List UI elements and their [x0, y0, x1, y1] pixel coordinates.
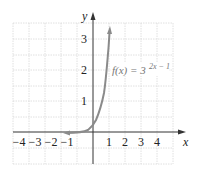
- function-label: f(x) = 3 2x − 1: [111, 62, 170, 77]
- x-tick-label: −1: [61, 135, 74, 149]
- x-tick-label: 3: [138, 135, 144, 149]
- y-axis-arrow-icon: [91, 12, 96, 20]
- x-tick-labels: −4 −3 −2 −1 1 2 3 4: [13, 135, 160, 149]
- x-tick-label: −3: [29, 135, 42, 149]
- curve-arrow-up-icon: [107, 26, 112, 34]
- x-tick-label: −2: [45, 135, 58, 149]
- x-axis-label: x: [182, 135, 189, 149]
- y-tick-labels: 1 2 3: [81, 32, 87, 108]
- x-axis: [13, 130, 186, 135]
- y-tick-label: 3: [81, 32, 87, 46]
- function-label-base: f(x) = 3: [112, 64, 146, 77]
- x-axis-arrow-icon: [178, 130, 186, 135]
- y-axis-label: y: [81, 9, 88, 23]
- y-tick-label: 1: [81, 94, 87, 108]
- graph-figure: y x −4 −3 −2 −1 1 2 3 4 1 2 3 f(x) = 3 2…: [0, 0, 197, 172]
- function-label-exponent: 2x − 1: [149, 62, 170, 71]
- x-tick-label: 4: [154, 135, 160, 149]
- x-tick-label: 2: [122, 135, 128, 149]
- function-curve: [63, 26, 112, 136]
- x-tick-label: −4: [13, 135, 26, 149]
- x-tick-label: 1: [106, 135, 112, 149]
- y-axis: [91, 12, 96, 164]
- graph-canvas: y x −4 −3 −2 −1 1 2 3 4 1 2 3 f(x) = 3 2…: [0, 0, 197, 172]
- y-tick-label: 2: [81, 63, 87, 77]
